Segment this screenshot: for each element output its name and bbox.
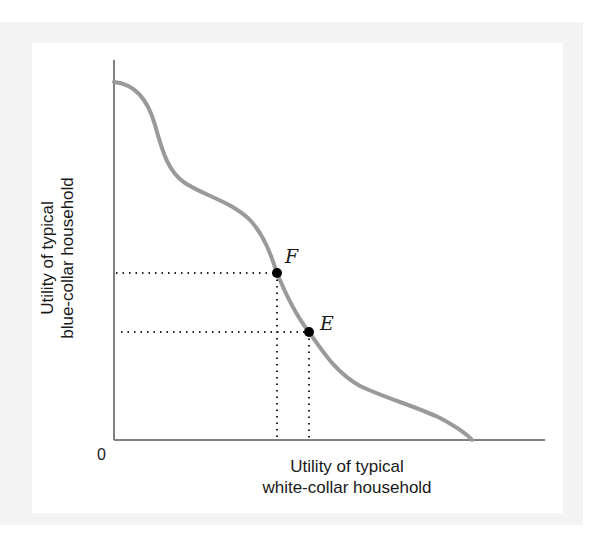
point-e-marker — [304, 327, 314, 337]
point-f-label: F — [285, 245, 298, 267]
point-e-label: E — [320, 312, 334, 334]
y-axis-label-line2: blue-collar household — [58, 177, 78, 339]
x-axis-label-line2: white-collar household — [262, 477, 431, 498]
y-axis-label: Utility of typical blue-collar household — [38, 177, 78, 339]
origin-label: 0 — [97, 446, 106, 464]
point-f-marker — [272, 268, 282, 278]
y-axis-label-line1: Utility of typical — [38, 177, 58, 339]
x-axis-label: Utility of typical white-collar househol… — [262, 456, 431, 498]
x-axis-label-line1: Utility of typical — [262, 456, 431, 477]
